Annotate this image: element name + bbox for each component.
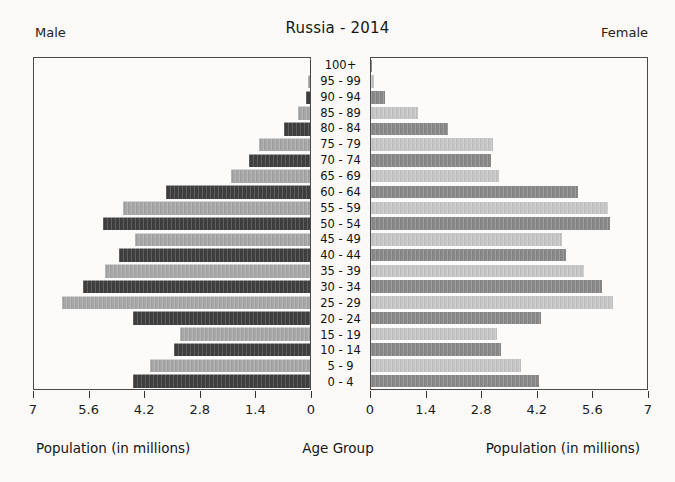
male-bar-row: [34, 153, 310, 169]
female-bar-60 - 64: [371, 186, 578, 199]
x-axis-tick-label: 2.8: [189, 402, 210, 417]
female-bar-15 - 19: [371, 328, 497, 341]
female-bar-row: [371, 263, 647, 279]
female-bar-75 - 79: [371, 138, 493, 151]
female-bar-row: [371, 342, 647, 358]
age-group-label: 95 - 99: [311, 73, 370, 89]
male-bar-row: [34, 358, 310, 374]
male-bar-row: [34, 279, 310, 295]
female-bar-70 - 74: [371, 154, 491, 167]
female-side-label: Female: [601, 25, 648, 40]
male-bar-row: [34, 184, 310, 200]
female-bar-20 - 24: [371, 312, 541, 325]
age-group-label: 40 - 44: [311, 247, 370, 263]
age-group-label: 75 - 79: [311, 136, 370, 152]
x-axis-tick-mark: [537, 391, 538, 398]
female-bar-95 - 99: [371, 75, 374, 88]
x-axis-tick-mark: [426, 391, 427, 398]
male-bar-60 - 64: [166, 185, 310, 199]
male-bar-row: [34, 200, 310, 216]
male-bar-row: [34, 137, 310, 153]
female-bar-25 - 29: [371, 296, 613, 309]
female-bar-80 - 84: [371, 123, 448, 136]
female-bar-row: [371, 184, 647, 200]
female-bar-row: [371, 153, 647, 169]
female-bar-90 - 94: [371, 91, 385, 104]
x-axis-tick-label: 7: [29, 402, 37, 417]
female-bar-row: [371, 294, 647, 310]
male-bar-row: [34, 326, 310, 342]
female-bar-row: [371, 105, 647, 121]
male-bar-row: [34, 168, 310, 184]
age-group-label: 15 - 19: [311, 327, 370, 343]
female-bar-row: [371, 373, 647, 389]
female-bar-row: [371, 58, 647, 74]
female-bar-10 - 14: [371, 343, 501, 356]
female-axis-caption: Population (in millions): [486, 440, 640, 456]
male-bar-0 - 4: [133, 374, 310, 388]
x-axis-tick-label: 7: [644, 402, 652, 417]
male-bar-row: [34, 342, 310, 358]
x-axis-tick-mark: [89, 391, 90, 398]
male-bar-70 - 74: [249, 154, 310, 168]
x-axis-tick-label: 5.6: [78, 402, 99, 417]
female-bar-5 - 9: [371, 359, 521, 372]
age-group-label: 50 - 54: [311, 216, 370, 232]
age-group-label: 65 - 69: [311, 168, 370, 184]
male-bar-90 - 94: [306, 91, 310, 105]
age-group-label: 85 - 89: [311, 105, 370, 121]
male-bar-row: [34, 105, 310, 121]
male-bar-80 - 84: [284, 122, 310, 136]
female-bar-row: [371, 200, 647, 216]
female-plot-area: [370, 57, 648, 390]
female-bar-row: [371, 74, 647, 90]
x-axis-tick-mark: [648, 391, 649, 398]
population-pyramid-figure: Male Russia - 2014 Female 100+95 - 9990 …: [0, 0, 675, 482]
x-axis-tick-label: 1.4: [415, 402, 436, 417]
female-bar-row: [371, 231, 647, 247]
x-axis-tick-label: 5.6: [582, 402, 603, 417]
x-axis-tick-label: 2.8: [471, 402, 492, 417]
female-bar-row: [371, 168, 647, 184]
male-bar-row: [34, 74, 310, 90]
male-bar-20 - 24: [133, 311, 310, 325]
male-bars-container: [34, 58, 310, 389]
male-bar-row: [34, 247, 310, 263]
age-group-label: 30 - 34: [311, 279, 370, 295]
x-axis-tick-label: 0: [366, 402, 374, 417]
x-axis-tick-mark: [311, 391, 312, 398]
age-group-label: 10 - 14: [311, 342, 370, 358]
male-bar-row: [34, 294, 310, 310]
male-bar-5 - 9: [150, 359, 310, 373]
male-bar-25 - 29: [62, 296, 310, 310]
male-bar-55 - 59: [123, 201, 310, 215]
female-bar-row: [371, 121, 647, 137]
female-bars-container: [371, 58, 647, 389]
female-x-axis-ticks: 01.42.84.25.67: [370, 390, 648, 426]
x-axis-tick-mark: [481, 391, 482, 398]
age-group-label: 55 - 59: [311, 200, 370, 216]
x-axis-tick-mark: [255, 391, 256, 398]
male-bar-35 - 39: [105, 264, 310, 278]
female-bar-row: [371, 90, 647, 106]
male-bar-30 - 34: [83, 280, 310, 294]
x-axis-tick-label: 0: [307, 402, 315, 417]
age-group-label: 60 - 64: [311, 184, 370, 200]
female-bar-row: [371, 358, 647, 374]
male-bar-row: [34, 216, 310, 232]
x-axis-tick-mark: [370, 391, 371, 398]
x-axis-tick-label: 4.2: [526, 402, 547, 417]
age-group-label: 80 - 84: [311, 120, 370, 136]
female-bar-55 - 59: [371, 202, 608, 215]
male-bar-row: [34, 263, 310, 279]
female-bar-50 - 54: [371, 217, 610, 230]
age-group-axis-caption: Age Group: [302, 440, 374, 456]
age-group-label: 20 - 24: [311, 311, 370, 327]
female-bar-row: [371, 247, 647, 263]
male-bar-75 - 79: [259, 138, 310, 152]
male-bar-row: [34, 310, 310, 326]
age-group-label: 70 - 74: [311, 152, 370, 168]
female-bar-row: [371, 310, 647, 326]
female-bar-65 - 69: [371, 170, 499, 183]
age-group-label: 45 - 49: [311, 231, 370, 247]
